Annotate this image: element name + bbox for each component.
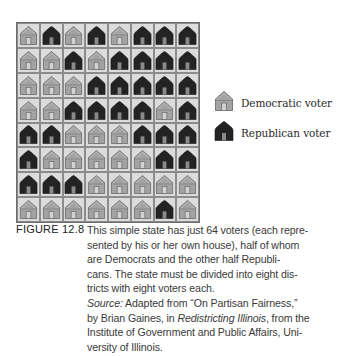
voter-cell: [131, 98, 154, 123]
voter-cell: [108, 123, 131, 148]
voter-cell: [154, 172, 177, 197]
voter-grid: [16, 22, 200, 223]
light-house-icon: [110, 174, 129, 195]
dark-house-icon: [133, 124, 152, 145]
voter-cell: [108, 73, 131, 98]
caption-line: are Democrats and the other half Republi…: [87, 252, 347, 267]
dark-house-icon: [155, 199, 174, 220]
voter-cell: [176, 172, 199, 197]
light-house-icon: [42, 75, 61, 96]
light-house-icon: [42, 149, 61, 170]
voter-cell: [40, 147, 63, 172]
voter-cell: [176, 123, 199, 148]
voter-cell: [154, 23, 177, 48]
dark-house-icon: [64, 174, 83, 195]
voter-cell: [176, 197, 199, 222]
voter-cell: [176, 147, 199, 172]
dark-house-icon: [155, 124, 174, 145]
light-house-icon: [19, 100, 38, 121]
light-house-icon: [133, 199, 152, 220]
source-text: Adapted from “On Partisan Fairness,”: [123, 297, 298, 309]
dark-house-icon: [87, 75, 106, 96]
dark-house-icon: [87, 25, 106, 46]
voter-cell: [176, 48, 199, 73]
figure-label: FIGURE 12.8: [16, 223, 84, 235]
voter-cell: [176, 73, 199, 98]
voter-cell: [40, 197, 63, 222]
dark-house-icon: [133, 50, 152, 71]
voter-cell: [63, 23, 86, 48]
voter-cell: [176, 98, 199, 123]
voter-cell: [40, 73, 63, 98]
voter-cell: [17, 147, 40, 172]
light-house-icon: [64, 75, 83, 96]
voter-cell: [17, 172, 40, 197]
voter-cell: [85, 197, 108, 222]
voter-cell: [40, 23, 63, 48]
voter-cell: [154, 123, 177, 148]
dark-house-icon: [64, 100, 83, 121]
light-house-icon: [110, 149, 129, 170]
dark-house-icon: [155, 25, 174, 46]
light-house-icon: [87, 149, 106, 170]
voter-cell: [17, 123, 40, 148]
light-house-icon: [87, 50, 106, 71]
source-line-4: versity of Illinois.: [87, 340, 347, 355]
voter-cell: [154, 73, 177, 98]
dark-house-icon: [19, 149, 38, 170]
light-house-icon: [64, 199, 83, 220]
caption-line: tricts with eight voters each.: [87, 281, 347, 296]
source-line-2: by Brian Gaines, in Redistricting Illino…: [87, 311, 347, 326]
dark-house-icon: [110, 50, 129, 71]
voter-cell: [154, 197, 177, 222]
dark-house-icon: [64, 50, 83, 71]
light-house-icon: [178, 174, 197, 195]
dark-house-icon: [133, 75, 152, 96]
dark-house-icon: [42, 174, 61, 195]
legend-item-republican: Republican voter: [214, 118, 332, 148]
dark-house-icon: [19, 174, 38, 195]
caption-line: sented by his or her own house), half of…: [87, 238, 347, 253]
dark-house-icon: [110, 100, 129, 121]
source-text: , from the: [266, 312, 310, 324]
light-house-icon: [87, 174, 106, 195]
source-text: by Brian Gaines, in: [87, 312, 177, 324]
voter-cell: [108, 98, 131, 123]
voter-cell: [17, 73, 40, 98]
dark-house-icon: [155, 149, 174, 170]
voter-cell: [17, 197, 40, 222]
source-title: Redistricting Illinois: [177, 312, 265, 324]
dark-house-icon: [87, 100, 106, 121]
legend-label-democratic: Democratic voter: [241, 97, 332, 109]
dark-house-icon: [214, 120, 241, 146]
voter-cell: [108, 197, 131, 222]
voter-cell: [85, 98, 108, 123]
light-house-icon: [133, 174, 152, 195]
voter-cell: [85, 147, 108, 172]
dark-house-icon: [110, 75, 129, 96]
caption-body: This simple state has just 64 voters (ea…: [87, 223, 347, 354]
dark-house-icon: [178, 25, 197, 46]
voter-cell: [85, 48, 108, 73]
dark-house-icon: [155, 75, 174, 96]
light-house-icon: [64, 124, 83, 145]
dark-house-icon: [42, 124, 61, 145]
light-house-icon: [19, 75, 38, 96]
voter-cell: [131, 172, 154, 197]
dark-house-icon: [155, 50, 174, 71]
dark-house-icon: [19, 124, 38, 145]
light-house-icon: [64, 25, 83, 46]
voter-cell: [108, 48, 131, 73]
voter-cell: [108, 172, 131, 197]
source-line-3: Institute of Government and Public Affai…: [87, 325, 347, 340]
voter-cell: [63, 197, 86, 222]
voter-cell: [154, 147, 177, 172]
voter-cell: [131, 73, 154, 98]
caption-line: This simple state has just 64 voters (ea…: [87, 223, 347, 238]
light-house-icon: [87, 199, 106, 220]
light-house-icon: [133, 149, 152, 170]
caption-line: cans. The state must be divided into eig…: [87, 267, 347, 282]
voter-cell: [85, 73, 108, 98]
dark-house-icon: [178, 100, 197, 121]
legend-item-democratic: Democratic voter: [214, 88, 332, 118]
